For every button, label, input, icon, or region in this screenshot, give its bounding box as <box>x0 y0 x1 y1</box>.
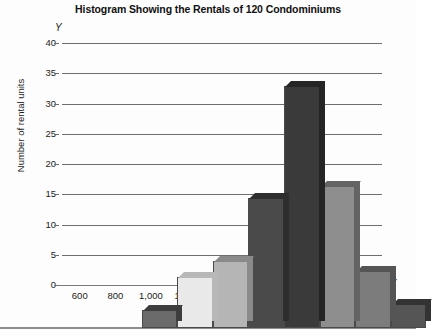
ytick-mark-30 <box>54 104 59 105</box>
gridline-35 <box>62 73 382 74</box>
bar-side-face <box>283 193 289 321</box>
bar-top-face <box>214 256 254 262</box>
chart-title: Histogram Showing the Rentals of 120 Con… <box>0 3 416 15</box>
y-axis-letter: Y <box>55 22 62 33</box>
bar-side-face <box>247 256 253 321</box>
bar-side-face <box>390 266 396 321</box>
bar-top-face <box>143 305 183 311</box>
bar-top-face <box>285 81 325 87</box>
ytick-label-10: 10 <box>30 219 56 230</box>
bar-side-face <box>354 181 360 321</box>
ytick-mark-20 <box>54 164 59 165</box>
ytick-mark-10 <box>54 225 59 226</box>
bar-top-face <box>321 181 361 187</box>
xtick-label-600: 600 <box>72 290 88 301</box>
ytick-mark-35 <box>54 73 59 74</box>
ytick-label-35: 35 <box>30 67 56 78</box>
histogram-bar <box>213 261 249 328</box>
ytick-label-15: 15 <box>30 188 56 199</box>
ytick-label-25: 25 <box>30 128 56 139</box>
ytick-mark-5 <box>54 255 59 256</box>
ytick-mark-25 <box>54 134 59 135</box>
ytick-label-40: 40 <box>30 37 56 48</box>
bar-top-face <box>178 272 218 278</box>
bar-top-face <box>392 299 432 305</box>
histogram-bar <box>355 271 391 328</box>
histogram-bar <box>248 198 284 328</box>
ytick-label-20: 20 <box>30 158 56 169</box>
ytick-mark-15 <box>54 194 59 195</box>
y-axis-title: Number of rental units <box>15 26 26 226</box>
ytick-mark-40 <box>54 43 59 44</box>
xtick-label-1000: 1,000 <box>139 290 163 301</box>
bar-side-face <box>212 272 218 321</box>
gridline-40 <box>62 43 382 44</box>
histogram-bar <box>320 186 356 328</box>
ytick-label-5: 5 <box>30 249 56 260</box>
bar-top-face <box>249 193 289 199</box>
bar-side-face <box>319 81 325 321</box>
xtick-label-800: 800 <box>107 290 123 301</box>
plot-area <box>62 43 382 285</box>
histogram-bar <box>284 86 320 328</box>
histogram-bar <box>391 304 427 328</box>
bar-top-face <box>356 266 396 272</box>
ytick-label-30: 30 <box>30 98 56 109</box>
histogram-bar <box>142 310 178 328</box>
y-tick-labels: 4035302520151050 <box>28 43 56 285</box>
ytick-label-0: 0 <box>30 279 56 290</box>
histogram-bar <box>177 277 213 328</box>
